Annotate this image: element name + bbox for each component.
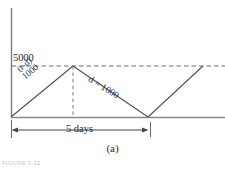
figure-caption: (a) bbox=[0, 142, 225, 154]
figure-panel: 5000 (r-d) 1000 d = 1000 5 days (a) FIGU… bbox=[0, 0, 225, 169]
figure-footer-fragment: FIGURE 5-12 bbox=[2, 160, 41, 166]
x-dimension-label: 5 days bbox=[0, 123, 159, 134]
